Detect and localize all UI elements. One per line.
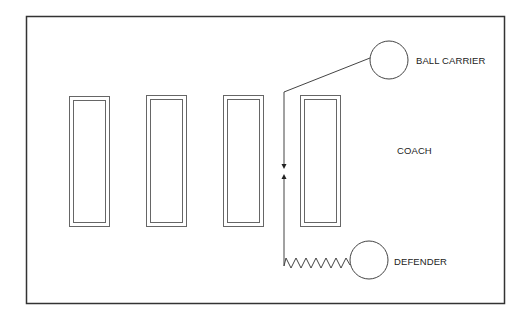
ball-carrier-circle: [370, 41, 408, 79]
coach-label: COACH: [397, 145, 432, 156]
ball-carrier-label: BALL CARRIER: [416, 55, 485, 66]
ball-carrier-path: [282, 58, 371, 169]
diagram-canvas: [0, 0, 531, 320]
arrow-down-icon: [282, 164, 287, 169]
defender-circle: [350, 241, 388, 279]
dummy-1: [70, 97, 110, 227]
drill-diagram: BALL CARRIER COACH DEFENDER: [0, 0, 531, 320]
dummy-2: [147, 96, 187, 227]
dummy-4: [301, 96, 341, 227]
arrow-up-icon: [282, 174, 287, 179]
dummy-3: [224, 96, 264, 227]
defender-label: DEFENDER: [394, 256, 447, 267]
defender-path: [282, 174, 351, 268]
